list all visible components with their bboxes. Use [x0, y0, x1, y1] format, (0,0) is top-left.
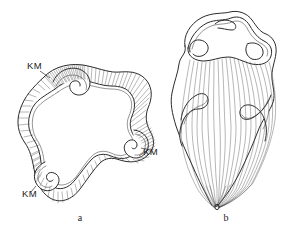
caption-a: a	[78, 212, 83, 223]
figure-drawing: KM KM KM a	[0, 0, 288, 235]
label-km-top: KM	[27, 60, 42, 71]
label-km-bottom: KM	[22, 188, 37, 199]
caption-b: b	[224, 212, 229, 223]
panel-a: KM KM KM a	[18, 60, 158, 223]
panel-b: b	[171, 11, 276, 223]
label-km-right: KM	[143, 146, 158, 157]
figure-plate: KM KM KM a	[0, 0, 288, 235]
